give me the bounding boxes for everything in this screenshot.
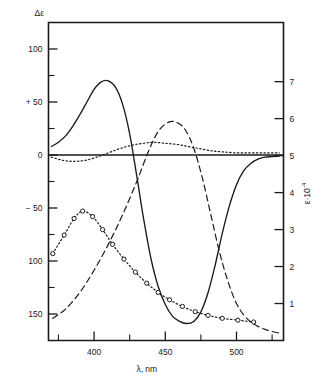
- data-point-marker: [122, 257, 126, 261]
- data-point-marker: [91, 215, 95, 219]
- data-point-marker: [167, 298, 171, 302]
- data-point-marker: [156, 290, 160, 294]
- data-point-marker: [193, 310, 197, 314]
- data-point-marker: [81, 209, 85, 213]
- data-point-marker: [101, 227, 105, 231]
- data-point-marker: [145, 281, 149, 285]
- data-point-marker: [220, 316, 224, 320]
- data-point-marker: [180, 304, 184, 308]
- data-point-marker: [251, 320, 255, 324]
- curve-0: [51, 80, 279, 323]
- spectrum-plot: [0, 0, 322, 380]
- data-point-marker: [51, 252, 55, 256]
- data-point-marker: [206, 313, 210, 317]
- data-point-marker: [133, 270, 137, 274]
- data-point-marker: [72, 216, 76, 220]
- data-point-marker: [62, 233, 66, 237]
- data-point-marker: [110, 242, 114, 246]
- spectrum-figure: 100+ 500− 501001501234567400450500Δελ, n…: [0, 0, 322, 380]
- data-point-marker: [236, 318, 240, 322]
- plot-frame: [49, 23, 284, 341]
- curve-1: [51, 142, 279, 161]
